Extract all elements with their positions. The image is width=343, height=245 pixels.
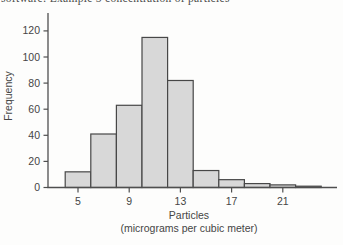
x-tick-label: 21 [277,195,289,207]
histogram-bar [142,37,168,187]
y-tick-label: 80 [28,77,40,89]
histogram-bar [116,105,142,187]
x-tick-label: 9 [126,195,132,207]
histogram-bar [193,171,219,188]
y-tick-label: 20 [28,155,40,167]
y-tick-label: 40 [28,129,40,141]
y-tick-label: 0 [34,181,40,193]
x-axis-unit-label: (micrograms per cubic meter) [48,222,330,235]
x-tick-label: 13 [175,195,187,207]
histogram-bar [91,134,117,188]
x-tick-label: 5 [75,195,81,207]
histogram-bar [65,172,91,188]
y-tick-label: 100 [22,51,40,63]
x-axis-label-block: Particles (micrograms per cubic meter) [48,209,330,234]
y-tick-label: 120 [22,24,40,36]
x-axis-label: Particles [48,209,330,222]
histogram-bar [168,80,194,187]
histogram-bar [219,180,245,188]
y-tick-label: 60 [28,103,40,115]
x-tick-label: 17 [226,195,238,207]
textbook-figure: software: Example 5 concentration of par… [0,0,343,245]
y-axis-label: Frequency [2,36,16,156]
